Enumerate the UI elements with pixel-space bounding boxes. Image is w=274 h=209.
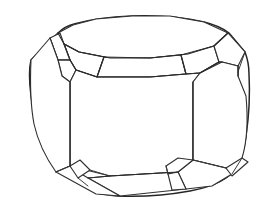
right-side-face	[193, 62, 247, 174]
gemstone-drawing	[0, 0, 274, 209]
gemstone-figure	[0, 0, 274, 209]
